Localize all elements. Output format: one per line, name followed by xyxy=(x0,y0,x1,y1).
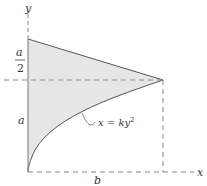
y-axis-label: y xyxy=(24,2,32,15)
x-axis-label: x xyxy=(197,166,204,179)
curve-leader xyxy=(82,113,95,125)
half-a-numerator: a xyxy=(16,46,23,59)
b-label: b xyxy=(94,174,101,186)
half-a-denominator: 2 xyxy=(17,62,24,75)
area-diagram: y x a 2 a b x = ky2 xyxy=(0,0,207,186)
a-label: a xyxy=(18,114,25,127)
curve-equation-base: x = ky xyxy=(98,117,130,128)
curve-equation-exp: 2 xyxy=(130,116,134,124)
curve-equation: x = ky2 xyxy=(98,116,135,128)
